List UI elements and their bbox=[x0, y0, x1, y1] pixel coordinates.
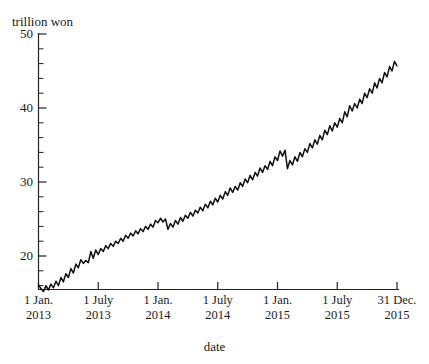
x-tick-label-line1: 1 July bbox=[322, 293, 352, 307]
y-tick-label: 50 bbox=[3, 27, 33, 41]
y-axis-ticks bbox=[39, 34, 47, 286]
x-axis-ticks bbox=[39, 282, 398, 290]
chart-axes bbox=[38, 33, 399, 290]
x-tick-label-line1: 31 Dec. bbox=[378, 293, 417, 307]
y-tick-label: 40 bbox=[3, 101, 33, 115]
x-tick-label-line1: 1 July bbox=[203, 293, 233, 307]
y-tick-label: 20 bbox=[3, 249, 33, 263]
chart-figure: trillion won 20304050 1 Jan.20131 July20… bbox=[0, 0, 429, 364]
x-tick-label-line2: 2015 bbox=[362, 308, 429, 323]
x-tick-label-line1: 1 Jan. bbox=[143, 293, 172, 307]
data-series-line bbox=[39, 61, 398, 291]
x-tick-label-line1: 1 Jan. bbox=[263, 293, 292, 307]
x-tick-label-line1: 1 July bbox=[83, 293, 113, 307]
y-tick-label: 30 bbox=[3, 175, 33, 189]
x-tick-label-line1: 1 Jan. bbox=[24, 293, 53, 307]
x-tick-label: 31 Dec.2015 bbox=[362, 293, 429, 322]
x-axis-title: date bbox=[0, 339, 429, 354]
